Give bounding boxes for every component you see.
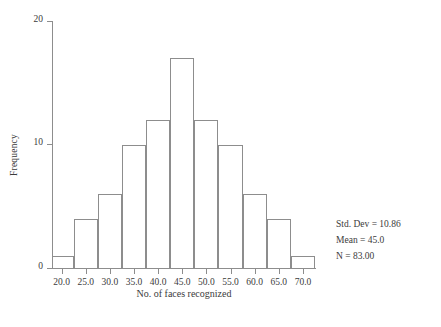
- histogram-bar: [194, 120, 218, 268]
- x-tick-label: 30.0: [102, 277, 119, 287]
- stat-mean: Mean = 45.0: [336, 232, 401, 248]
- x-tick: [279, 269, 280, 274]
- x-tick: [62, 269, 63, 274]
- histogram-bar: [291, 256, 315, 268]
- histogram-bar: [267, 219, 291, 268]
- x-tick: [134, 269, 135, 274]
- x-tick-label: 25.0: [77, 277, 94, 287]
- x-tick-label: 20.0: [53, 277, 70, 287]
- y-axis-label: Frequency: [9, 115, 19, 195]
- x-tick: [158, 269, 159, 274]
- histogram-bar: [98, 194, 122, 268]
- histogram-bar: [146, 120, 170, 268]
- x-tick-label: 45.0: [174, 277, 191, 287]
- y-tick-label-0: 0: [38, 261, 43, 271]
- stat-n: N = 83.00: [336, 248, 401, 264]
- x-tick: [86, 269, 87, 274]
- x-tick-label: 35.0: [126, 277, 143, 287]
- x-tick-label: 50.0: [198, 277, 215, 287]
- stat-std-dev: Std. Dev = 10.86: [336, 216, 401, 232]
- x-tick-label: 70.0: [295, 277, 312, 287]
- histogram-bar: [243, 194, 267, 268]
- x-axis-label: No. of faces recognized: [52, 288, 316, 299]
- x-tick: [206, 269, 207, 274]
- y-tick-0: 0: [47, 268, 52, 269]
- x-tick: [255, 269, 256, 274]
- x-tick-label: 40.0: [150, 277, 167, 287]
- x-tick: [110, 269, 111, 274]
- y-tick-1: 10: [47, 144, 52, 145]
- histogram-bar: [122, 145, 146, 269]
- histogram-bar: [170, 58, 194, 268]
- histogram-figure: Frequency 0 10 20 20.025.030.035.040.045…: [0, 0, 441, 327]
- plot-area: 0 10 20 20.025.030.035.040.045.050.055.0…: [52, 21, 315, 268]
- x-tick: [182, 269, 183, 274]
- x-tick-label: 55.0: [222, 277, 239, 287]
- y-axis-line: [52, 21, 53, 269]
- x-tick-label: 65.0: [270, 277, 287, 287]
- y-tick-label-1: 10: [34, 137, 44, 147]
- histogram-bar: [74, 219, 98, 268]
- x-tick: [303, 269, 304, 274]
- x-tick: [231, 269, 232, 274]
- y-tick-2: 20: [47, 21, 52, 22]
- histogram-bar: [52, 256, 74, 268]
- x-axis-line: [52, 268, 316, 269]
- histogram-bar: [218, 145, 242, 269]
- x-tick-label: 60.0: [246, 277, 263, 287]
- y-tick-label-2: 20: [34, 14, 44, 24]
- stats-annotation: Std. Dev = 10.86 Mean = 45.0 N = 83.00: [336, 216, 401, 264]
